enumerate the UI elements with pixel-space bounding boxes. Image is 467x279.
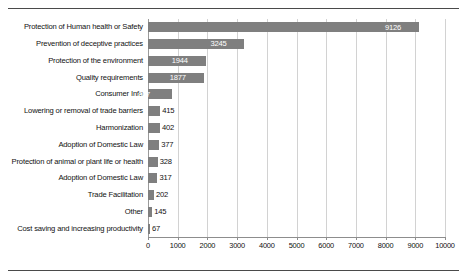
bar[interactable]: [148, 106, 160, 116]
x-tick-label: 3000: [229, 241, 245, 250]
tick-mark-7000: [356, 237, 357, 240]
bar-row: Prevention of deceptive practices3245: [0, 36, 467, 53]
bar-cell: 1877: [148, 69, 467, 86]
category-label: Cost saving and increasing productivity: [0, 225, 148, 233]
bar-cell: 415: [148, 103, 467, 120]
bar-rows: Protection of Human health or Safety9126…: [0, 19, 467, 237]
bar-row: Adoption of Domestic Law377: [0, 136, 467, 153]
chart-page: Protection of Human health or Safety9126…: [0, 0, 467, 279]
horizontal-bar-chart: Protection of Human health or Safety9126…: [0, 19, 467, 252]
bar-row: Adoption of Domestic Law317: [0, 170, 467, 187]
x-tick-label: 1000: [170, 241, 186, 250]
bar-value-label: 67: [152, 225, 160, 233]
bar-cell: 202: [148, 187, 467, 204]
bar[interactable]: [148, 224, 150, 234]
category-label: Harmonization: [0, 124, 148, 132]
bar[interactable]: [148, 140, 159, 150]
tick-mark-6000: [326, 237, 327, 240]
bar[interactable]: [148, 22, 419, 32]
tick-mark-2000: [207, 237, 208, 240]
tick-mark-3000: [237, 237, 238, 240]
bar-row: Harmonization402: [0, 120, 467, 137]
bar-cell: 807: [148, 86, 467, 103]
x-tick-label: 9000: [407, 241, 423, 250]
bar-row: Protection of the environment1944: [0, 53, 467, 70]
bar-cell: 377: [148, 136, 467, 153]
category-label: Protection of Human health or Safety: [0, 23, 148, 31]
bar-value-label: 807: [138, 91, 154, 99]
category-label: Prevention of deceptive practices: [0, 40, 148, 48]
bar-value-label: 317: [159, 174, 171, 182]
bottom-divider-rule: [8, 270, 459, 271]
bar-row: Protection of animal or plant life or he…: [0, 153, 467, 170]
bar-row: Consumer Info807: [0, 86, 467, 103]
x-tick-label: 4000: [259, 241, 275, 250]
category-label: Protection of animal or plant life or he…: [0, 158, 148, 166]
bar-cell: 1944: [148, 53, 467, 70]
bar-value-label: 3245: [210, 40, 230, 48]
bar-cell: 9126: [148, 19, 467, 36]
tick-mark-5000: [297, 237, 298, 240]
bar-row: Protection of Human health or Safety9126: [0, 19, 467, 36]
bar[interactable]: [148, 173, 157, 183]
bar-value-label: 9126: [385, 24, 405, 32]
top-divider-rule: [8, 8, 459, 9]
category-label: Protection of the environment: [0, 57, 148, 65]
x-tick-label: 6000: [318, 241, 334, 250]
x-tick-label: 8000: [378, 241, 394, 250]
bar-value-label: 402: [162, 124, 174, 132]
bar-row: Other145: [0, 203, 467, 220]
bar-row: Quality requirements1877: [0, 69, 467, 86]
bar[interactable]: [148, 207, 152, 217]
category-label: Consumer Info: [0, 90, 148, 98]
category-label: Adoption of Domestic Law: [0, 174, 148, 182]
category-label: Trade Facilitation: [0, 191, 148, 199]
x-axis-ticks: 0100020003000400050006000700080009000100…: [148, 237, 445, 251]
bar-cell: 3245: [148, 36, 467, 53]
bar-row: Lowering or removal of trade barriers415: [0, 103, 467, 120]
tick-mark-8000: [386, 237, 387, 240]
x-tick-label: 7000: [348, 241, 364, 250]
x-tick-label: 5000: [289, 241, 305, 250]
bar-value-label: 145: [154, 208, 166, 216]
bar-row: Trade Facilitation202: [0, 187, 467, 204]
x-tick-label: 10000: [435, 241, 455, 250]
tick-mark-9000: [415, 237, 416, 240]
bar-value-label: 1877: [170, 74, 190, 82]
tick-mark-0: [148, 237, 149, 240]
tick-mark-10000: [445, 237, 446, 240]
bar-row: Cost saving and increasing productivity6…: [0, 220, 467, 237]
bar-cell: 402: [148, 120, 467, 137]
bar-value-label: 377: [161, 141, 173, 149]
x-tick-label: 2000: [200, 241, 216, 250]
category-label: Adoption of Domestic Law: [0, 141, 148, 149]
bar-cell: 67: [148, 220, 467, 237]
bar-value-label: 415: [162, 107, 174, 115]
bar[interactable]: [148, 157, 158, 167]
category-label: Quality requirements: [0, 74, 148, 82]
tick-mark-4000: [267, 237, 268, 240]
category-label: Other: [0, 208, 148, 216]
bar-cell: 145: [148, 203, 467, 220]
x-tick-label: 0: [146, 241, 150, 250]
bar-cell: 328: [148, 153, 467, 170]
bar[interactable]: [148, 123, 160, 133]
tick-mark-1000: [178, 237, 179, 240]
bar[interactable]: [148, 190, 154, 200]
bar-value-label: 328: [160, 158, 172, 166]
bar-value-label: 1944: [172, 57, 192, 65]
bar-cell: 317: [148, 170, 467, 187]
category-label: Lowering or removal of trade barriers: [0, 107, 148, 115]
bar-value-label: 202: [156, 191, 168, 199]
